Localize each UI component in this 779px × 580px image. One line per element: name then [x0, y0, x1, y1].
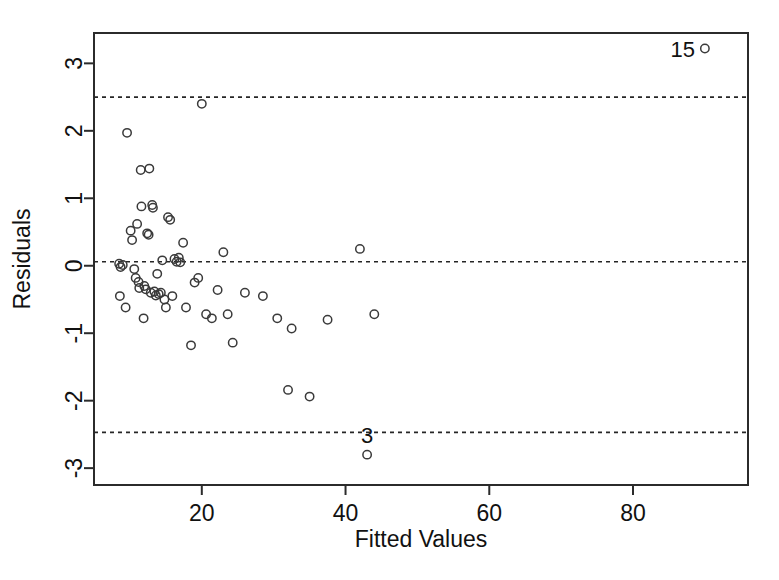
data-point — [198, 100, 206, 108]
data-point — [363, 450, 371, 458]
data-point — [137, 166, 145, 174]
data-point — [179, 239, 187, 247]
y-tick-label: 2 — [61, 124, 87, 137]
x-tick-label: 40 — [333, 500, 359, 526]
data-point — [128, 236, 136, 244]
data-point — [223, 310, 231, 318]
data-point — [123, 129, 131, 137]
data-point — [370, 310, 378, 318]
data-point — [126, 226, 134, 234]
data-point — [273, 314, 281, 322]
data-point — [130, 265, 138, 273]
x-tick-label: 60 — [476, 500, 502, 526]
data-point — [182, 303, 190, 311]
y-axis-title: Residuals — [9, 209, 35, 310]
x-tick-label: 20 — [189, 500, 215, 526]
data-point — [158, 256, 166, 264]
y-tick-label: 3 — [61, 57, 87, 70]
data-point — [133, 220, 141, 228]
data-point — [323, 316, 331, 324]
data-point — [116, 292, 124, 300]
y-tick-label: -2 — [61, 390, 87, 410]
data-point — [305, 392, 313, 400]
point-annotations-group: 153 — [361, 37, 695, 448]
x-axis-title: Fitted Values — [355, 526, 488, 552]
data-point — [162, 303, 170, 311]
point-label-3: 3 — [361, 423, 373, 448]
y-axis: 3210-1-2-3 — [61, 57, 94, 478]
data-point — [284, 386, 292, 394]
data-point — [137, 202, 145, 210]
point-label-15: 15 — [670, 37, 694, 62]
data-point — [187, 341, 195, 349]
x-tick-label: 80 — [620, 500, 646, 526]
data-point — [229, 338, 237, 346]
residuals-vs-fitted-plot: 3210-1-2-3 20406080 153 Fitted Values Re… — [0, 0, 779, 580]
y-tick-label: -3 — [61, 458, 87, 478]
data-point — [287, 324, 295, 332]
data-point — [701, 44, 709, 52]
reference-lines-group — [94, 97, 748, 432]
data-points-group — [115, 44, 709, 459]
data-point — [219, 248, 227, 256]
data-point — [121, 303, 129, 311]
data-point — [241, 289, 249, 297]
data-point — [139, 314, 147, 322]
plot-frame — [94, 33, 748, 485]
data-point — [168, 292, 176, 300]
data-point — [153, 270, 161, 278]
data-point — [160, 295, 168, 303]
y-tick-label: 0 — [61, 259, 87, 272]
data-point — [213, 286, 221, 294]
data-point — [259, 292, 267, 300]
data-point — [356, 245, 364, 253]
plot-canvas: 3210-1-2-3 20406080 153 Fitted Values Re… — [0, 0, 779, 580]
x-axis: 20406080 — [189, 485, 646, 526]
y-tick-label: -1 — [61, 323, 87, 343]
y-tick-label: 1 — [61, 192, 87, 205]
data-point — [145, 164, 153, 172]
